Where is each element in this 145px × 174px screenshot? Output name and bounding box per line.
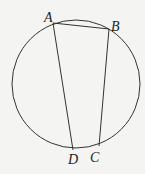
geometry-diagram: ABCD — [0, 0, 145, 174]
point-label-C: C — [90, 150, 100, 165]
segments — [53, 23, 109, 150]
point-label-A: A — [43, 10, 53, 25]
segment-AD — [53, 23, 73, 150]
segment-AB — [53, 23, 109, 29]
point-label-D: D — [67, 152, 78, 167]
segment-BC — [99, 29, 109, 146]
point-label-B: B — [111, 19, 120, 34]
circle — [12, 20, 140, 148]
